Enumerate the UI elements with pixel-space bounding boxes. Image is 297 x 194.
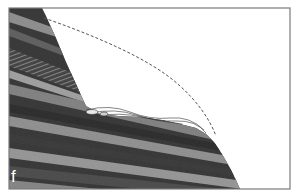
diagram-figure [0,0,297,194]
panel-label: f [11,168,16,186]
